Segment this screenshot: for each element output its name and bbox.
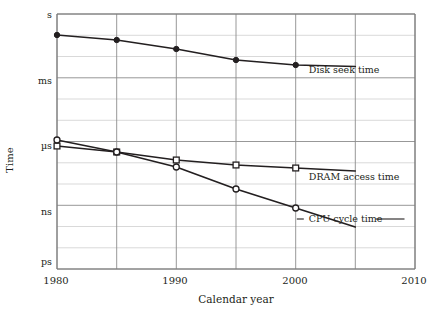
axis-labels-group: smsµsnsps1980199020002010TimeCalendar ye… (4, 9, 427, 305)
x-tick-label: 1980 (43, 275, 68, 286)
series-annotation-label: DRAM access time (309, 171, 400, 182)
data-point-marker (54, 143, 60, 149)
y-tick-label: µs (41, 140, 52, 151)
y-tick-label: ms (38, 75, 52, 86)
data-point-marker (114, 37, 119, 42)
data-point-marker (174, 46, 179, 51)
x-tick-label: 2000 (282, 275, 307, 286)
time-vs-calendar-year-line-chart: smsµsnsps1980199020002010TimeCalendar ye… (0, 0, 436, 311)
data-point-marker (114, 149, 120, 155)
series-line (57, 35, 355, 67)
x-tick-label: 1990 (162, 275, 187, 286)
series-annotations-group: Disk seek timeDRAM access timeCPU cycle … (297, 64, 405, 224)
y-axis-title: Time (4, 147, 15, 172)
chart-container: smsµsnsps1980199020002010TimeCalendar ye… (0, 0, 436, 311)
y-tick-label: ns (41, 206, 52, 217)
series-annotation-label: Disk seek time (309, 64, 380, 75)
series-disk-seek-time (54, 32, 355, 67)
data-point-marker (293, 62, 298, 67)
data-point-marker (293, 165, 299, 171)
data-point-marker (54, 32, 59, 37)
data-series-group (54, 32, 355, 227)
data-point-marker (233, 186, 239, 192)
data-point-marker (233, 57, 238, 62)
data-point-marker (173, 164, 179, 170)
y-tick-label: ps (41, 256, 52, 267)
y-tick-label: s (47, 9, 52, 20)
data-point-marker (173, 157, 179, 163)
series-dram-access-time (54, 143, 355, 171)
x-tick-label: 2010 (401, 275, 426, 286)
data-point-marker (54, 137, 60, 143)
x-axis-title: Calendar year (198, 293, 274, 305)
data-point-marker (293, 205, 299, 211)
gridlines (57, 14, 415, 269)
data-point-marker (233, 162, 239, 168)
series-annotation-label: CPU cycle time (309, 213, 383, 224)
